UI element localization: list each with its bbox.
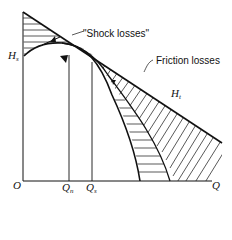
friction-adjusted-curve	[62, 43, 170, 181]
qs-label: Qs	[86, 182, 97, 195]
hs-label: Hs	[8, 50, 19, 63]
ht-label: Ht	[171, 88, 181, 101]
shock-arrowhead-icon	[50, 36, 56, 42]
actual-head-curve	[24, 43, 140, 181]
curve-arrowhead-icon	[60, 55, 68, 63]
shock-losses-label: "Shock losses"	[83, 29, 149, 39]
friction-losses-hatch	[95, 58, 230, 184]
friction-leader-line	[144, 60, 153, 72]
qn-label: Qn	[62, 182, 73, 195]
q-axis-label: Q	[212, 180, 220, 191]
origin-label: O	[13, 180, 21, 191]
inner-losses-hatch	[105, 100, 180, 172]
friction-losses-label: Friction losses	[156, 56, 220, 66]
